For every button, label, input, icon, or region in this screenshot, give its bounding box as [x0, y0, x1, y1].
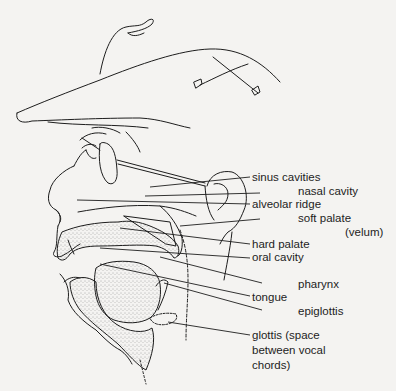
vocal-tract-diagram: sinus cavities nasal cavity alveolar rid…	[0, 0, 396, 391]
label-pharynx: pharynx	[298, 278, 339, 291]
leader-epiglottis	[164, 283, 262, 310]
label-epiglottis: epiglottis	[298, 305, 343, 318]
label-oral-cavity: oral cavity	[252, 251, 304, 264]
leader-glottis	[168, 322, 250, 335]
label-sinus-cavities: sinus cavities	[252, 171, 320, 184]
leader-nasal	[145, 193, 260, 196]
leader-alveolar	[77, 200, 250, 204]
label-glottis-line1: glottis (space	[252, 329, 320, 342]
face-profile	[48, 166, 74, 226]
label-tongue: tongue	[252, 291, 287, 304]
label-alveolar-ridge: alveolar ridge	[252, 198, 321, 211]
glasses-icon	[99, 143, 117, 184]
hat-outline	[100, 19, 153, 74]
label-glottis-line3: chords)	[252, 359, 290, 372]
leader-sinus	[150, 177, 250, 187]
leader-soft-palate	[180, 219, 260, 226]
ear-outline	[207, 172, 246, 244]
label-nasal-cavity: nasal cavity	[298, 185, 358, 198]
hard-palate-region	[57, 221, 179, 260]
label-glottis-line2: between vocal	[252, 344, 326, 357]
label-hard-palate: hard palate	[252, 238, 310, 251]
leader-pharynx	[160, 257, 262, 283]
label-soft-palate: soft palate	[298, 212, 351, 225]
hat-pin-icon	[213, 57, 258, 93]
label-velum: (velum)	[345, 226, 383, 239]
